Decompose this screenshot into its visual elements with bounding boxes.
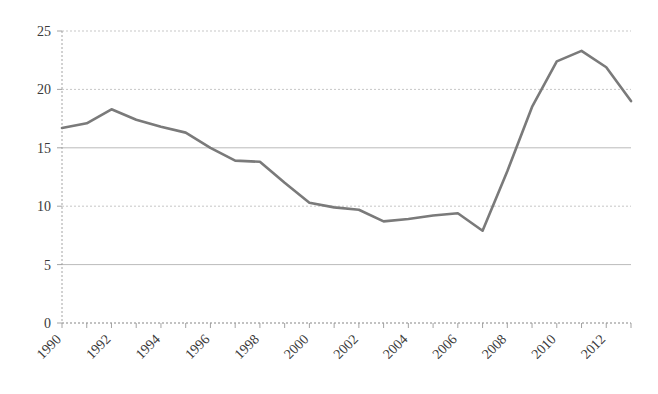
x-tick-label-2012: 2012	[578, 332, 608, 362]
x-tick-label-1998: 1998	[232, 332, 262, 362]
chart-canvas: 0510152025 19901992199419961998200020022…	[0, 0, 658, 394]
x-tick-labels: 1990199219941996199820002002200420062008…	[34, 332, 609, 362]
y-axis	[57, 31, 62, 323]
x-tick-label-1996: 1996	[182, 332, 212, 362]
data-series	[62, 51, 631, 231]
series-line-0	[62, 51, 631, 231]
x-tick-label-2006: 2006	[430, 332, 460, 362]
y-tick-labels: 0510152025	[37, 24, 51, 331]
gridlines	[62, 31, 631, 323]
y-tick-label-15: 15	[37, 141, 51, 156]
x-tick-label-1994: 1994	[133, 332, 163, 362]
x-tick-label-1992: 1992	[83, 332, 113, 362]
y-tick-label-20: 20	[37, 82, 51, 97]
y-tick-label-5: 5	[44, 258, 51, 273]
x-tick-label-2010: 2010	[528, 332, 558, 362]
x-axis	[62, 323, 631, 328]
y-tick-label-10: 10	[37, 199, 51, 214]
line-chart: 0510152025 19901992199419961998200020022…	[0, 0, 658, 394]
x-tick-label-1990: 1990	[34, 332, 64, 362]
x-tick-label-2004: 2004	[380, 332, 410, 362]
y-tick-label-25: 25	[37, 24, 51, 39]
y-tick-label-0: 0	[44, 316, 51, 331]
x-tick-label-2002: 2002	[331, 332, 361, 362]
x-tick-label-2000: 2000	[281, 332, 311, 362]
x-tick-label-2008: 2008	[479, 332, 509, 362]
